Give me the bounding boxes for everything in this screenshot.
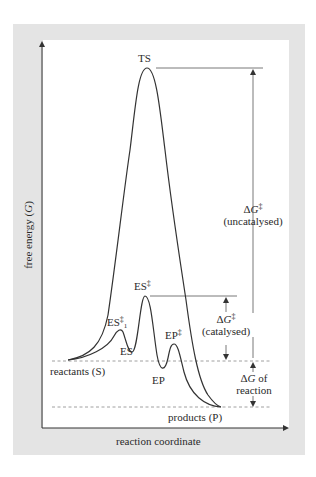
delta-symbol: Δ bbox=[216, 313, 223, 325]
dagger-symbol: ‡ bbox=[259, 202, 263, 211]
dagger-symbol: ‡ bbox=[232, 312, 236, 321]
catalysed-label: (catalysed) bbox=[193, 325, 259, 337]
g-var: G bbox=[224, 313, 232, 325]
es-dagger-text: ES bbox=[134, 280, 147, 292]
x-axis-label: reaction coordinate bbox=[116, 435, 201, 447]
ep-dagger-label: EP‡ bbox=[165, 329, 182, 341]
reaction-label: reaction bbox=[231, 384, 277, 396]
ep-dagger-text: EP bbox=[165, 329, 178, 341]
uncatalysed-curve bbox=[68, 68, 221, 407]
delta-symbol: Δ bbox=[243, 203, 250, 215]
products-label: products (P) bbox=[168, 411, 222, 423]
es-label: ES bbox=[120, 345, 133, 357]
g-var: G bbox=[248, 372, 256, 384]
reactants-label: reactants (S) bbox=[50, 365, 105, 377]
reaction-annotation: ΔG of reaction bbox=[231, 372, 277, 396]
ts-label: TS bbox=[138, 52, 151, 64]
dagger-symbol: ‡ bbox=[147, 279, 151, 288]
catalysed-annotation: ΔG‡ (catalysed) bbox=[193, 313, 259, 337]
g-var: G bbox=[251, 203, 259, 215]
delta-symbol: Δ bbox=[241, 372, 248, 384]
es-dagger-label: ES‡ bbox=[134, 280, 151, 292]
y-axis-label-var: G bbox=[22, 205, 34, 213]
y-axis-label: free energy (G) bbox=[22, 201, 34, 269]
uncatalysed-annotation: ΔG‡ (uncatalysed) bbox=[215, 203, 291, 227]
subscript-1: 1 bbox=[124, 322, 128, 330]
es-dagger-1-label: ES‡1 bbox=[107, 316, 127, 328]
y-axis-label-suffix: ) bbox=[22, 201, 34, 205]
dagger-symbol: ‡ bbox=[178, 328, 182, 337]
uncatalysed-label: (uncatalysed) bbox=[215, 215, 291, 227]
of-text: of bbox=[256, 372, 268, 384]
ep-label: EP bbox=[152, 374, 165, 386]
es-dagger-1-text: ES bbox=[107, 316, 120, 328]
y-axis-label-prefix: free energy ( bbox=[22, 213, 34, 269]
energy-diagram bbox=[0, 0, 316, 477]
